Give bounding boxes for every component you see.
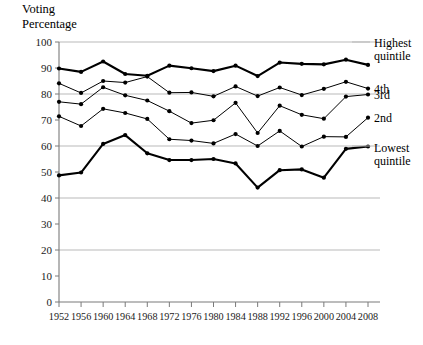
x-tick-label: 1988	[247, 311, 267, 322]
data-point	[322, 62, 326, 66]
data-point	[145, 117, 149, 121]
y-tick-marks-group	[55, 42, 59, 302]
series-label: quintile	[374, 154, 411, 168]
data-point	[167, 137, 171, 141]
data-point	[300, 113, 304, 117]
data-point	[256, 131, 260, 135]
data-point	[57, 100, 61, 104]
data-point	[79, 170, 83, 174]
y-tick-label: 100	[36, 36, 53, 48]
data-point	[189, 121, 193, 125]
data-point	[211, 69, 215, 73]
data-point	[322, 135, 326, 139]
data-point	[344, 80, 348, 84]
chart-figure: Voting Percentage 0102030405060708090100…	[0, 0, 423, 345]
y-tick-label: 0	[47, 296, 53, 308]
data-point	[167, 91, 171, 95]
data-point	[233, 132, 237, 136]
y-tick-label: 60	[41, 140, 53, 152]
data-point	[167, 158, 171, 162]
data-point	[145, 98, 149, 102]
x-tick-label: 1972	[159, 311, 179, 322]
data-point	[101, 107, 105, 111]
data-point	[233, 161, 237, 165]
series-label: quintile	[374, 49, 411, 63]
series-line-4th	[59, 77, 368, 97]
data-point	[233, 101, 237, 105]
data-point	[79, 70, 83, 74]
data-point	[79, 124, 83, 128]
x-tick-label: 1960	[93, 311, 113, 322]
x-tick-labels-group: 1952195619601964196819721976198019841988…	[49, 311, 378, 322]
x-tick-label: 1952	[49, 311, 69, 322]
data-point	[101, 59, 105, 63]
line-chart-canvas: 0102030405060708090100 19521956196019641…	[0, 0, 423, 345]
x-tick-label: 1964	[115, 311, 135, 322]
data-point	[145, 151, 149, 155]
x-tick-label: 1980	[203, 311, 223, 322]
data-point	[189, 90, 193, 94]
data-point	[278, 168, 282, 172]
data-point	[256, 94, 260, 98]
y-tick-label: 90	[41, 62, 53, 74]
data-point	[123, 72, 127, 76]
data-point	[366, 92, 370, 96]
series-label: 3rd	[374, 88, 390, 102]
data-point	[189, 158, 193, 162]
series-label: 2nd	[374, 111, 392, 125]
data-point	[278, 60, 282, 64]
data-point	[167, 109, 171, 113]
data-point	[300, 93, 304, 97]
data-point	[300, 144, 304, 148]
x-tick-label: 1984	[225, 311, 245, 322]
data-point	[123, 133, 127, 137]
y-tick-labels-group: 0102030405060708090100	[36, 36, 53, 308]
data-point	[123, 93, 127, 97]
data-point	[233, 64, 237, 68]
data-point	[145, 74, 149, 78]
x-tick-label: 2004	[336, 311, 356, 322]
x-tick-label: 1956	[71, 311, 91, 322]
data-point	[344, 135, 348, 139]
series-label: Lowest	[374, 141, 410, 155]
data-point	[278, 104, 282, 108]
data-point	[256, 186, 260, 190]
x-tick-label: 1976	[181, 311, 201, 322]
data-point	[256, 74, 260, 78]
series-label: Highest	[374, 36, 412, 50]
data-point	[366, 86, 370, 90]
data-point	[167, 64, 171, 68]
data-point	[233, 84, 237, 88]
data-point	[322, 176, 326, 180]
x-tick-label: 1992	[270, 311, 290, 322]
data-point	[57, 81, 61, 85]
data-point	[123, 80, 127, 84]
series-line-2nd	[59, 109, 368, 147]
data-point	[101, 79, 105, 83]
y-tick-label: 70	[41, 114, 53, 126]
data-point	[101, 85, 105, 89]
x-tick-label: 2008	[358, 311, 378, 322]
data-point	[211, 118, 215, 122]
gridlines-group	[59, 42, 380, 250]
data-point	[366, 144, 370, 148]
x-tick-marks-group	[59, 302, 368, 307]
y-tick-label: 80	[41, 88, 53, 100]
y-tick-label: 20	[41, 244, 53, 256]
data-point	[278, 85, 282, 89]
y-tick-label: 50	[41, 166, 53, 178]
data-point	[256, 144, 260, 148]
data-point	[79, 91, 83, 95]
data-series-group	[57, 58, 370, 190]
data-point	[344, 147, 348, 151]
data-point	[57, 173, 61, 177]
data-point	[278, 129, 282, 133]
data-point	[189, 66, 193, 70]
data-point	[300, 62, 304, 66]
data-point	[57, 66, 61, 70]
data-point	[344, 58, 348, 62]
data-point	[211, 157, 215, 161]
x-tick-label: 2000	[314, 311, 334, 322]
data-point	[300, 167, 304, 171]
data-point	[79, 102, 83, 106]
